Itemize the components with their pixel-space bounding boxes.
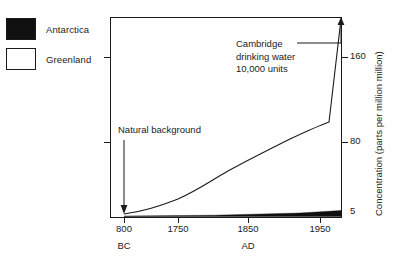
- annotation-natural-background: Natural background: [118, 124, 201, 135]
- annotation-cambridge: Cambridge drinking water 10,000 units: [236, 38, 295, 76]
- series-area-antarctica: [124, 211, 341, 217]
- annotation-cambridge-line3: 10,000 units: [236, 63, 295, 76]
- annotation-leader-cambridge: [297, 24, 341, 43]
- annotation-cambridge-line1: Cambridge: [236, 38, 295, 51]
- annotation-arrowhead-natural: [121, 205, 128, 214]
- annotation-cambridge-line2: drinking water: [236, 51, 295, 64]
- annotation-arrowhead-cambridge: [338, 17, 345, 25]
- series-line-greenland: [124, 19, 341, 214]
- figure-lead-concentration: Antarctica Greenland 160 80 5 Concentrat…: [0, 0, 400, 259]
